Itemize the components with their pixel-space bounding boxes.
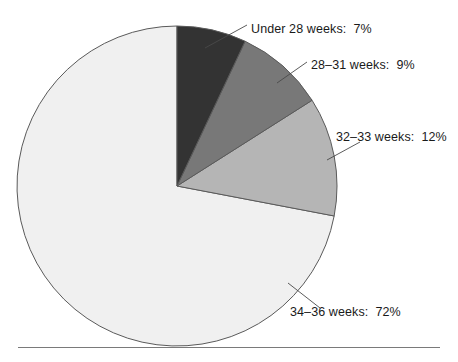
chart-canvas: Under 28 weeks: 7% 28–31 weeks: 9% 32–33… — [0, 0, 458, 362]
pie-label-32-33-weeks: 32–33 weeks: 12% — [336, 130, 447, 144]
pie-chart: Under 28 weeks: 7% 28–31 weeks: 9% 32–33… — [0, 0, 458, 362]
pie-label-28-31-weeks: 28–31 weeks: 9% — [311, 58, 415, 72]
pie-label-under-28-weeks: Under 28 weeks: 7% — [251, 22, 372, 36]
pie-label-34-36-weeks: 34–36 weeks: 72% — [290, 305, 401, 319]
